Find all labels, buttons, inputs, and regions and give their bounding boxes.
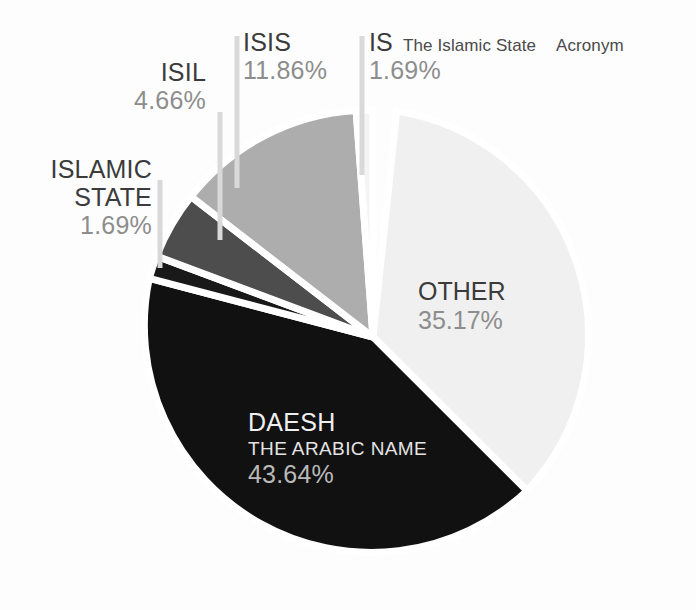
callout-islamic-state-name-line1: ISLAMIC bbox=[16, 155, 152, 183]
slice-label-other[interactable]: OTHER 35.17% bbox=[418, 277, 506, 334]
callout-islamic-state-percent: 1.69% bbox=[16, 211, 152, 239]
callout-isil-name: ISIL bbox=[48, 58, 206, 86]
slice-label-daesh-subtitle: THE ARABIC NAME bbox=[248, 438, 427, 460]
callout-is[interactable]: IS The Islamic State Acronym 1.69% bbox=[369, 28, 624, 84]
callout-islamic-state-name-line2: STATE bbox=[16, 183, 152, 211]
callout-is-name: IS bbox=[369, 28, 393, 56]
slice-label-other-percent: 35.17% bbox=[418, 306, 506, 335]
callout-isis-name: ISIS bbox=[243, 28, 327, 56]
callout-islamic-state[interactable]: ISLAMIC STATE 1.69% bbox=[16, 155, 152, 239]
slice-label-daesh[interactable]: DAESH THE ARABIC NAME 43.64% bbox=[248, 408, 427, 489]
callout-isil[interactable]: ISIL 4.66% bbox=[48, 58, 206, 114]
callout-is-headline: IS The Islamic State Acronym bbox=[369, 28, 624, 56]
callout-isil-percent: 4.66% bbox=[48, 86, 206, 114]
slice-label-other-name: OTHER bbox=[418, 277, 506, 306]
pie-chart-figure: ISLAMIC STATE 1.69% ISIL 4.66% ISIS 11.8… bbox=[0, 0, 696, 610]
slice-label-daesh-name: DAESH bbox=[248, 408, 427, 438]
callout-is-subtitle-2: Acronym bbox=[556, 36, 624, 55]
callout-isis-percent: 11.86% bbox=[243, 56, 327, 84]
slice-label-daesh-percent: 43.64% bbox=[248, 460, 427, 490]
callout-is-subtitle: The Islamic State bbox=[403, 36, 536, 55]
callout-is-percent: 1.69% bbox=[369, 56, 624, 84]
callout-isis[interactable]: ISIS 11.86% bbox=[243, 28, 327, 84]
